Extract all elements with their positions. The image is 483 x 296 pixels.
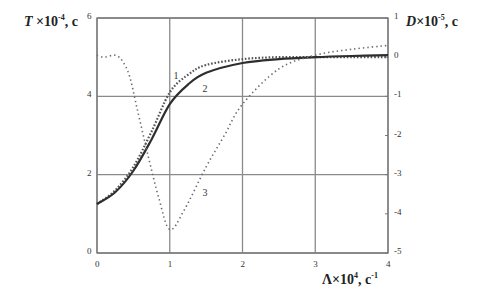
y-tick-label: 0	[87, 247, 92, 256]
left-axis-var: T	[24, 14, 33, 29]
curve-label-3: 3	[202, 187, 207, 198]
right-axis-unit: , c	[445, 14, 458, 29]
right-axis-title: D×10-5, c	[406, 14, 458, 30]
chart-canvas: 123	[0, 0, 483, 296]
x-tick-label: 4	[386, 260, 391, 269]
curve-label-1: 1	[173, 70, 178, 81]
right-axis-var: D	[406, 14, 416, 29]
left-axis-title: T ×10-4, c	[24, 14, 78, 30]
left-axis-scale: ×10	[33, 14, 58, 29]
y-right-tick-label: 0	[394, 51, 399, 60]
y-tick-label: 2	[87, 169, 92, 178]
y-tick-label: 4	[87, 90, 92, 99]
y-right-tick-label: -3	[394, 169, 402, 178]
x-tick-label: 1	[168, 260, 173, 269]
x-tick-label: 0	[95, 260, 100, 269]
y-right-tick-label: -1	[394, 90, 402, 99]
x-axis-unit: , c	[358, 272, 371, 287]
right-axis-scale: ×10	[416, 14, 438, 29]
x-axis-title: Λ×104, c-1	[322, 272, 378, 288]
x-axis-var: Λ×10	[322, 272, 354, 287]
left-axis-unit: , c	[65, 14, 78, 29]
x-tick-label: 3	[313, 260, 318, 269]
right-axis-exp: -5	[438, 13, 445, 22]
y-right-tick-label: -2	[394, 130, 402, 139]
y-right-tick-label: 1	[394, 12, 399, 21]
y-right-tick-label: -4	[394, 208, 402, 217]
y-tick-label: 6	[87, 12, 92, 21]
x-axis-unit-exp: -1	[371, 271, 378, 280]
left-axis-exp: -4	[58, 13, 65, 22]
curve-label-2: 2	[202, 83, 207, 94]
x-tick-label: 2	[241, 260, 246, 269]
y-right-tick-label: -5	[394, 247, 402, 256]
